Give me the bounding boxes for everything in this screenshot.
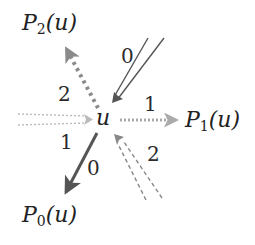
edge-u-to-p2 (66, 48, 98, 108)
edge-in-left-double (18, 114, 93, 125)
label-out-p2: 2 (58, 84, 71, 104)
node-p0: P0(u) (22, 204, 77, 228)
node-p2-sub: 2 (37, 21, 46, 37)
arrowhead-icon (84, 114, 93, 125)
node-p2-suffix: (u) (46, 10, 77, 35)
label-out-p1: 1 (144, 94, 157, 114)
graph-diagram: u P2(u) P1(u) P0(u) 2 1 0 0 1 2 (0, 0, 255, 245)
node-u: u (96, 107, 110, 129)
node-p2: P2(u) (22, 12, 77, 36)
node-p1: P1(u) (185, 109, 240, 133)
label-in-left: 1 (60, 132, 73, 152)
node-p0-suffix: (u) (46, 202, 77, 227)
node-p0-sub: 0 (37, 213, 46, 229)
label-in-top: 0 (121, 46, 134, 66)
label-in-bottom: 2 (147, 144, 160, 164)
arrowhead-icon (114, 134, 124, 145)
node-p2-prefix: P (22, 10, 37, 35)
node-p1-suffix: (u) (209, 107, 240, 132)
node-p0-prefix: P (22, 202, 37, 227)
node-p1-sub: 1 (200, 118, 209, 134)
label-out-p0: 0 (87, 158, 100, 178)
node-p1-prefix: P (185, 107, 200, 132)
